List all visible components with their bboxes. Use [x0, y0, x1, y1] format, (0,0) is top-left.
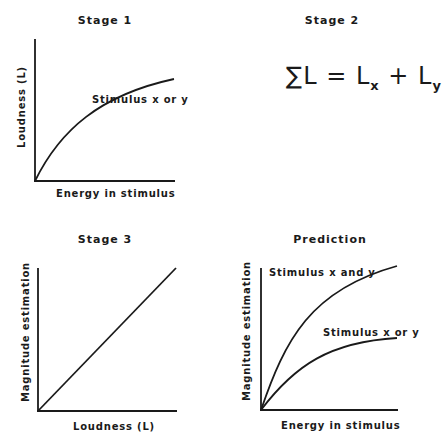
prediction-curve-upper	[261, 266, 397, 410]
prediction-lower-label: Stimulus x or y	[323, 327, 420, 338]
subscript-y: y	[432, 78, 441, 93]
stage1-chart	[34, 39, 175, 182]
stage1-xlabel: Energy in stimulus	[56, 188, 175, 199]
stage1-ylabel: Loudness (L)	[16, 66, 27, 148]
stage3-xlabel: Loudness (L)	[73, 421, 155, 432]
stage3-ylabel: Magnitude estimation	[20, 262, 31, 402]
prediction-ylabel: Magnitude estimation	[241, 261, 252, 401]
prediction-xlabel: Energy in stimulus	[281, 420, 400, 431]
prediction-chart	[260, 266, 398, 411]
prediction-curve-lower	[261, 338, 397, 410]
stage3-line	[38, 268, 176, 411]
stage3-chart	[37, 268, 177, 412]
prediction-upper-label: Stimulus x and y	[269, 267, 376, 278]
stage1-curve-label: Stimulus x or y	[92, 94, 189, 105]
